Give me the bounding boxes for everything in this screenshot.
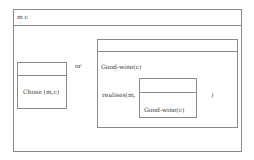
right-condition-2-prefix: realises(m, [102, 92, 135, 98]
right-condition-2-suffix: ) [211, 92, 213, 98]
nested-divider [140, 92, 196, 93]
outer-universe: m c [17, 14, 28, 20]
left-divider [18, 75, 66, 76]
left-condition: Chose (m,c) [23, 89, 59, 95]
outer-divider [14, 25, 241, 26]
nested-drs-box: Good-wine(c) [139, 78, 197, 118]
disjunction-connector: or [75, 63, 81, 69]
right-condition-1: Good-wine(c) [101, 64, 141, 70]
right-divider [98, 51, 237, 52]
left-drs-box: Chose (m,c) [17, 62, 67, 109]
nested-condition: Good-wine(c) [144, 107, 184, 113]
